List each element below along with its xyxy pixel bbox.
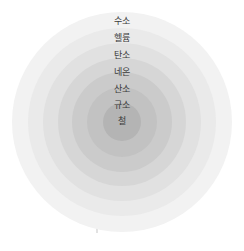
shell-label-hydrogen: 수소 xyxy=(0,17,244,26)
shell-label-iron: 철 xyxy=(0,117,244,126)
shell-label-silicon: 규소 xyxy=(0,101,244,110)
shell-label-carbon: 탄소 xyxy=(0,51,244,60)
shell-label-oxygen: 산소 xyxy=(0,85,244,94)
shell-label-neon: 네온 xyxy=(0,68,244,77)
shell-label-helium: 헬륨 xyxy=(0,34,244,43)
stellar-shell-diagram: 수소 헬륨 탄소 네온 산소 규소 철 xyxy=(0,0,244,251)
